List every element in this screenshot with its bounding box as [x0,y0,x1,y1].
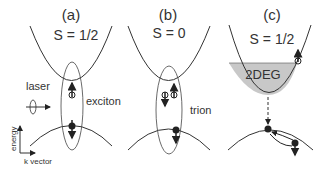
panel-a: exciton laser energy k vector [9,26,121,166]
panel-a-title: (a) [62,6,80,23]
diagram: (a) (b) (c) S = 1/2 S = 0 S = 1/2 excito… [0,0,332,170]
hole-icon [265,126,272,133]
panel-a-spin: S = 1/2 [54,27,99,43]
panel-c-spin: S = 1/2 [250,31,295,47]
valence-band [128,129,210,150]
panel-b: trion [128,26,211,154]
panel-b-spin: S = 0 [152,25,185,41]
relaxation-loop [270,134,292,146]
valence-band [228,130,313,150]
exciton-label: exciton [86,95,121,107]
trion-label: trion [190,104,211,116]
k-axis-label: k vector [24,157,52,166]
2deg-label: 2DEG [245,67,280,82]
trion-ellipse [156,66,182,154]
energy-axis-label: energy [9,127,18,151]
panel-c-title: (c) [263,6,281,23]
laser-label: laser [26,80,50,92]
panel-b-title: (b) [159,6,177,23]
